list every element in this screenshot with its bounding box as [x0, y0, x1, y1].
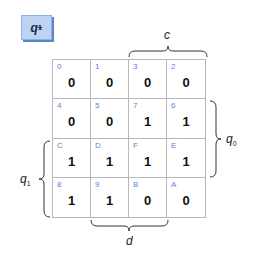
cell-value: 0 [129, 193, 166, 208]
cell-value: 0 [53, 75, 90, 90]
cell-index: 0 [57, 62, 61, 71]
kmap-cell: 71 [129, 99, 167, 138]
kmap-cell: 10 [91, 60, 129, 99]
cell-value: 0 [167, 193, 205, 208]
cell-index: 9 [95, 180, 99, 189]
label-d: d [126, 234, 133, 248]
kmap-cell: 00 [53, 60, 91, 99]
cell-value: 1 [167, 154, 205, 169]
kmap-cell: E1 [167, 139, 205, 178]
cell-index: F [133, 141, 138, 150]
kmap-cell: 30 [129, 60, 167, 99]
cell-value: 0 [129, 75, 166, 90]
cell-index: E [171, 141, 176, 150]
label-q0: q0 [226, 132, 237, 147]
cell-index: B [133, 180, 138, 189]
kmap-cell: A0 [167, 178, 205, 217]
kmap-cell: 81 [53, 178, 91, 217]
cell-value: 0 [91, 75, 128, 90]
cell-value: 1 [53, 154, 90, 169]
cell-index: 3 [133, 62, 137, 71]
cell-index: 2 [171, 62, 175, 71]
top-brace-icon [127, 44, 209, 58]
kmap-cell: 91 [91, 178, 129, 217]
cell-value: 1 [167, 114, 205, 129]
function-title-badge: q1+ [21, 15, 52, 40]
cell-value: 1 [129, 154, 166, 169]
bottom-brace-icon [89, 219, 170, 233]
label-q1: q1 [20, 172, 31, 187]
cell-index: A [171, 180, 176, 189]
cell-index: D [95, 141, 101, 150]
cell-value: 1 [129, 114, 166, 129]
kmap-cell: D1 [91, 139, 129, 178]
cell-value: 1 [91, 193, 128, 208]
cell-index: 5 [95, 101, 99, 110]
kmap-cell: F1 [129, 139, 167, 178]
cell-value: 0 [91, 114, 128, 129]
cell-value: 1 [53, 193, 90, 208]
cell-value: 0 [167, 75, 205, 90]
right-brace-icon [209, 99, 223, 179]
cell-value: 0 [53, 114, 90, 129]
kmap-cell: 50 [91, 99, 129, 138]
label-c: c [164, 28, 170, 42]
cell-index: 7 [133, 101, 137, 110]
title-main: q [31, 21, 38, 35]
cell-index: 6 [171, 101, 175, 110]
cell-index: 8 [57, 180, 61, 189]
kmap-cell: B0 [129, 178, 167, 217]
cell-value: 1 [91, 154, 128, 169]
kmap-cell: 20 [167, 60, 205, 99]
kmap-cell: C1 [53, 139, 91, 178]
kmap-cell: 61 [167, 99, 205, 138]
left-brace-icon [37, 139, 51, 219]
cell-index: 4 [57, 101, 61, 110]
title-superscript: + [38, 23, 43, 32]
kmap-cell: 40 [53, 99, 91, 138]
karnaugh-map: 00 10 30 20 40 50 71 61 C1 D1 F1 E1 81 9… [52, 59, 206, 218]
cell-index: 1 [95, 62, 99, 71]
cell-index: C [57, 141, 63, 150]
